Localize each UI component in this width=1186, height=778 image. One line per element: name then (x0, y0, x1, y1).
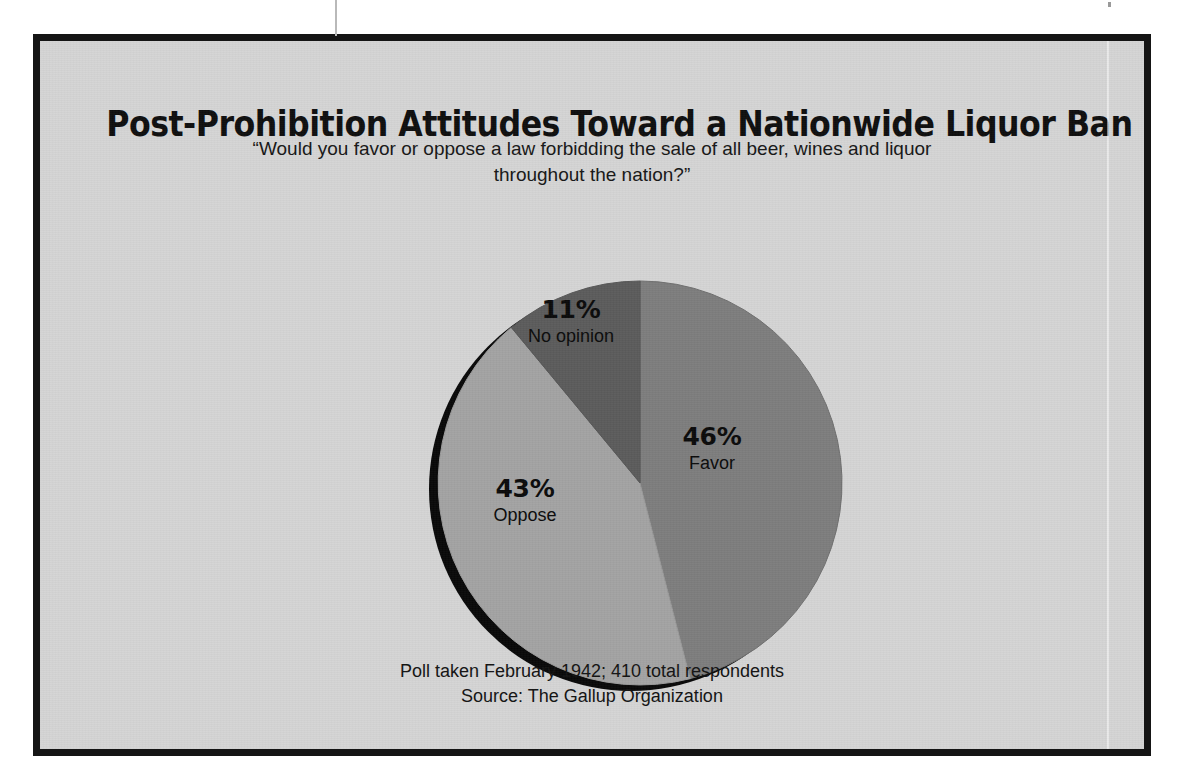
pie-label-no-opinion-name: No opinion (496, 326, 646, 346)
pie-label-oppose-name: Oppose (450, 505, 600, 525)
pie-label-oppose: 43% Oppose (450, 475, 600, 525)
chart-footnote: Poll taken February 1942; 410 total resp… (242, 659, 942, 709)
chart-footnote-poll: Poll taken February 1942; 410 total resp… (242, 659, 942, 684)
pie-label-oppose-percent: 43% (450, 475, 600, 503)
scan-artifact-speck (1108, 2, 1111, 7)
pie-label-favor-name: Favor (637, 453, 787, 473)
pie-label-no-opinion-percent: 11% (496, 296, 646, 324)
pie-label-no-opinion: 11% No opinion (496, 296, 646, 346)
scan-artifact-line (335, 0, 337, 36)
chart-card: Post-Prohibition Attitudes Toward a Nati… (33, 34, 1151, 756)
pie-chart-svg (40, 41, 1144, 749)
paper-fold-line (1107, 41, 1109, 749)
pie-label-favor: 46% Favor (637, 423, 787, 473)
pie-chart: 46% Favor 43% Oppose 11% No opinion (40, 41, 1144, 749)
pie-label-favor-percent: 46% (637, 423, 787, 451)
chart-footnote-source: Source: The Gallup Organization (242, 684, 942, 709)
